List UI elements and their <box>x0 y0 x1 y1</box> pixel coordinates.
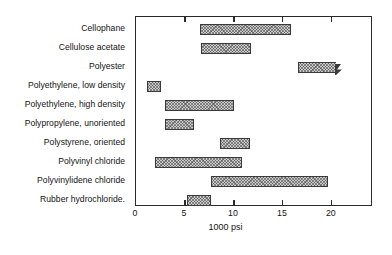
range-bar <box>155 157 242 168</box>
category-label: Cellophane <box>0 23 125 33</box>
category-label: Polystyrene, oriented <box>0 137 125 147</box>
range-bar <box>187 195 211 206</box>
x-axis-tick-top <box>331 16 332 22</box>
x-axis-tick-labels: 05101520 <box>135 208 372 222</box>
category-label: Polyvinylidene chloride <box>0 175 125 185</box>
tensile-strength-range-chart: CellophaneCellulose acetatePolyesterPoly… <box>0 0 392 255</box>
x-axis-tick-label: 0 <box>133 208 138 219</box>
category-label: Polyvinyl chloride <box>0 156 125 166</box>
plot-frame <box>135 16 372 206</box>
x-axis-tick <box>331 200 332 206</box>
category-label: Polypropylene, unoriented <box>0 118 125 128</box>
x-axis-tick <box>233 200 234 206</box>
category-label-column: CellophaneCellulose acetatePolyesterPoly… <box>0 16 130 206</box>
category-label: Rubber hydrochloride. <box>0 194 125 204</box>
x-axis-tick-top <box>282 16 283 22</box>
x-axis-tick-label: 15 <box>277 208 287 219</box>
range-bar <box>147 81 162 92</box>
range-bar <box>298 62 336 73</box>
x-axis-title-text: 1000 psi <box>208 222 242 232</box>
x-axis-tick-top <box>184 16 185 22</box>
category-label: Polyethylene, low density <box>0 80 125 90</box>
x-axis-title: 1000 psi <box>135 222 372 232</box>
x-axis-tick-label: 10 <box>228 208 238 219</box>
x-axis-tick-label: 20 <box>326 208 336 219</box>
bars-layer <box>136 17 371 205</box>
range-bar <box>201 43 251 54</box>
range-bar <box>165 100 234 111</box>
x-axis-tick-top <box>233 16 234 22</box>
range-bar <box>165 119 193 130</box>
axis-break-icon <box>335 61 345 72</box>
category-label: Polyethylene, high density <box>0 99 125 109</box>
category-label: Cellulose acetate <box>0 42 125 52</box>
range-bar <box>200 24 291 35</box>
x-axis-tick <box>184 200 185 206</box>
range-bar <box>211 176 328 187</box>
x-axis-tick <box>282 200 283 206</box>
x-axis-tick-label: 5 <box>182 208 187 219</box>
range-bar <box>220 138 249 149</box>
category-label: Polyester <box>0 61 125 71</box>
